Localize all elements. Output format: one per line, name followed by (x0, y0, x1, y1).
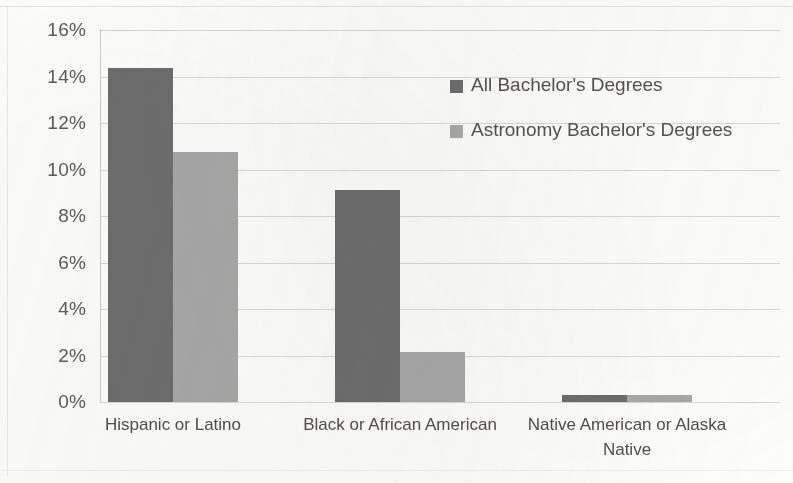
y-gridline (101, 402, 780, 403)
y-axis-tick-label: 0% (8, 391, 86, 413)
legend-label: All Bachelor's Degrees (471, 74, 663, 96)
y-gridline (101, 77, 780, 78)
bar-all-group-0 (108, 68, 173, 402)
bar-astronomy-group-0 (173, 152, 238, 402)
y-axis-tick-label: 12% (8, 112, 86, 134)
legend-label: Astronomy Bachelor's Degrees (471, 119, 732, 141)
chart-screenshot: All Bachelor's Degrees Astronomy Bachelo… (0, 0, 793, 483)
bar-all-group-2 (562, 395, 627, 402)
x-axis-category-label: Hispanic or Latino (63, 412, 283, 437)
y-axis-tick-label: 8% (8, 205, 86, 227)
legend-swatch-icon (450, 80, 463, 93)
y-axis-tick-label: 2% (8, 345, 86, 367)
x-axis-category-label: Native American or Alaska Native (517, 412, 737, 462)
legend-swatch-icon (450, 125, 463, 138)
y-axis-tick-label: 10% (8, 159, 86, 181)
bar-astronomy-group-2 (627, 395, 692, 402)
bar-astronomy-group-1 (400, 352, 465, 402)
plot-area (101, 30, 780, 402)
bar-all-group-1 (335, 190, 400, 402)
scan-edge-bottom (0, 470, 793, 471)
y-axis-tick-label: 6% (8, 252, 86, 274)
y-axis-tick-label: 16% (8, 19, 86, 41)
y-gridline (101, 30, 780, 31)
x-axis-category-label: Black or African American (290, 412, 510, 437)
y-axis-tick-label: 4% (8, 298, 86, 320)
y-axis-tick-label: 14% (8, 66, 86, 88)
scan-edge-top (0, 6, 793, 7)
